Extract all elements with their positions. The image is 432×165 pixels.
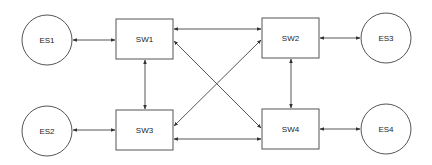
node-es1[interactable]: ES1 [22, 15, 72, 65]
node-sw1[interactable]: SW1 [116, 19, 173, 59]
node-label: SW2 [282, 34, 300, 43]
node-es2[interactable]: ES2 [22, 106, 72, 156]
node-sw3[interactable]: SW3 [116, 110, 173, 150]
node-label: SW1 [136, 35, 154, 44]
node-sw4[interactable]: SW4 [262, 109, 319, 149]
node-label: ES1 [39, 36, 55, 45]
node-label: SW3 [136, 126, 154, 135]
network-diagram: ES1 ES2 ES3 ES4 SW1 SW2 SW3 SW4 [0, 0, 432, 165]
node-es4[interactable]: ES4 [361, 104, 411, 154]
node-sw2[interactable]: SW2 [262, 18, 319, 58]
node-label: SW4 [282, 125, 300, 134]
node-es3[interactable]: ES3 [361, 13, 411, 63]
node-label: ES3 [378, 34, 394, 43]
node-label: ES2 [39, 127, 55, 136]
edge-sw3-sw2[interactable] [174, 40, 261, 126]
edge-sw1-sw4[interactable] [174, 41, 261, 128]
node-label: ES4 [378, 125, 394, 134]
